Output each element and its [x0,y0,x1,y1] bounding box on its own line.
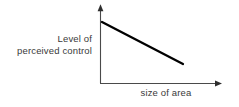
y-axis-label: Level of perceived control [0,33,92,57]
x-axis-arrowhead-icon [215,81,222,87]
series-segment-perceived-control [102,22,183,64]
chart-figure: Level of perceived control size of area [0,0,239,107]
y-axis [98,4,104,83]
x-axis [100,81,222,87]
data-series-line [102,22,183,64]
y-axis-arrowhead-icon [98,4,104,11]
x-axis-label: size of area [110,87,222,99]
y-axis-label-line-2: perceived control [0,45,92,57]
y-axis-label-line-1: Level of [0,33,92,45]
